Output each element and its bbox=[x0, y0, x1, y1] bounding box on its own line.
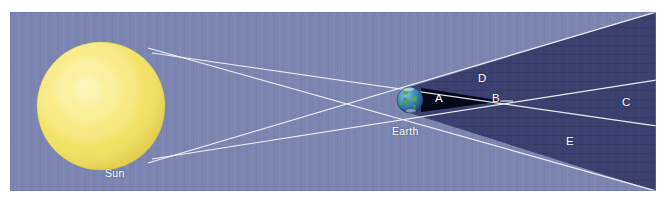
region-label-a: A bbox=[435, 93, 443, 104]
region-label-c: C bbox=[622, 97, 631, 108]
region-label-d: D bbox=[478, 73, 487, 84]
diagram-canvas bbox=[0, 0, 668, 207]
region-label-b: B bbox=[492, 93, 500, 104]
sun-label: Sun bbox=[105, 168, 125, 179]
sun-ripple-texture bbox=[37, 42, 165, 170]
sky-panel-group bbox=[10, 12, 656, 191]
earth-label: Earth bbox=[392, 126, 419, 137]
region-label-e: E bbox=[566, 136, 574, 147]
eclipse-diagram-figure: Sun Earth A B C D E bbox=[0, 0, 668, 207]
